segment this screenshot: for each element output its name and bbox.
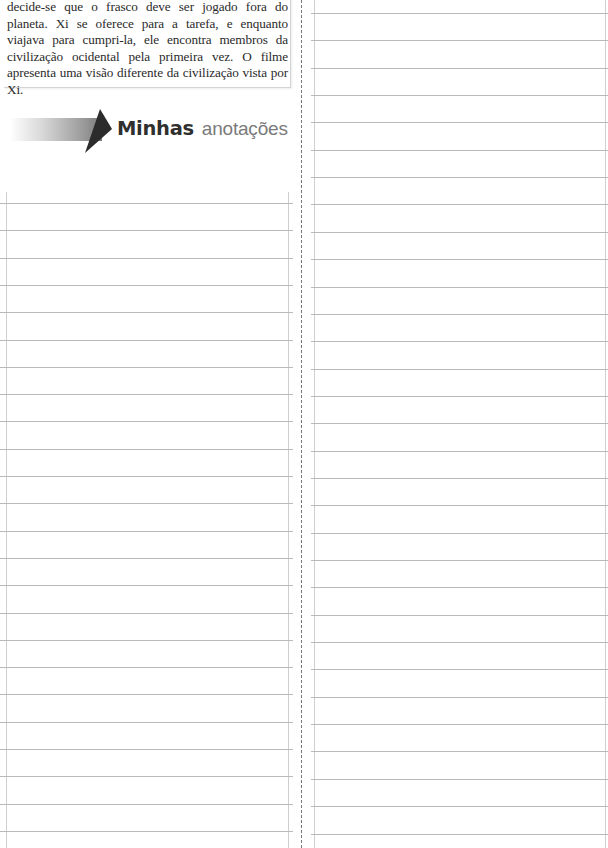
writing-line [0, 722, 293, 723]
writing-line [311, 697, 608, 698]
writing-line [311, 779, 608, 780]
writing-line [0, 585, 293, 586]
story-text-box: decide-se que o frasco deve ser jogado f… [4, 0, 291, 88]
arrow-tip-icon [83, 109, 115, 154]
writing-line [0, 531, 293, 532]
writing-line [0, 503, 293, 504]
writing-line [311, 204, 608, 205]
notes-title-bold: Minhas [117, 117, 194, 140]
writing-line [311, 478, 608, 479]
page-fold-dashed-separator [301, 0, 302, 848]
writing-line [0, 694, 293, 695]
writing-line [0, 749, 293, 750]
writing-line [311, 396, 608, 397]
writing-line [0, 776, 293, 777]
writing-line [311, 287, 608, 288]
writing-line [0, 449, 293, 450]
writing-line [311, 95, 608, 96]
writing-line [311, 314, 608, 315]
notes-title-light: anotações [202, 118, 288, 139]
writing-line [311, 587, 608, 588]
writing-line [311, 751, 608, 752]
writing-line [311, 669, 608, 670]
writing-line [311, 259, 608, 260]
story-paragraph: decide-se que o frasco deve ser jogado f… [7, 0, 288, 99]
notes-lines-left[interactable] [0, 192, 296, 848]
writing-line [311, 423, 608, 424]
writing-line [0, 203, 293, 204]
writing-line [311, 40, 608, 41]
writing-line [311, 533, 608, 534]
writing-line [311, 834, 608, 835]
writing-line [311, 122, 608, 123]
writing-line [311, 68, 608, 69]
writing-line [0, 804, 293, 805]
writing-line [0, 667, 293, 668]
margin-line [314, 0, 315, 848]
notes-lines-right[interactable] [308, 0, 608, 848]
writing-line [0, 421, 293, 422]
writing-line [311, 724, 608, 725]
writing-line [0, 613, 293, 614]
writing-line [0, 394, 293, 395]
margin-line [605, 0, 606, 848]
writing-line [311, 177, 608, 178]
writing-line [0, 312, 293, 313]
writing-line [311, 341, 608, 342]
writing-line [311, 150, 608, 151]
writing-line [311, 232, 608, 233]
writing-line [0, 258, 293, 259]
writing-line [311, 806, 608, 807]
writing-line [0, 640, 293, 641]
writing-line [0, 340, 293, 341]
writing-line [0, 285, 293, 286]
writing-line [0, 367, 293, 368]
writing-line [311, 615, 608, 616]
writing-line [311, 369, 608, 370]
writing-line [311, 451, 608, 452]
writing-line [311, 13, 608, 14]
writing-line [311, 560, 608, 561]
writing-line [0, 476, 293, 477]
writing-line [0, 831, 293, 832]
writing-line [0, 230, 293, 231]
writing-line [0, 558, 293, 559]
writing-line [311, 505, 608, 506]
notes-title: Minhasanotações [117, 117, 288, 140]
notes-heading: Minhasanotações [0, 106, 290, 156]
writing-line [311, 642, 608, 643]
